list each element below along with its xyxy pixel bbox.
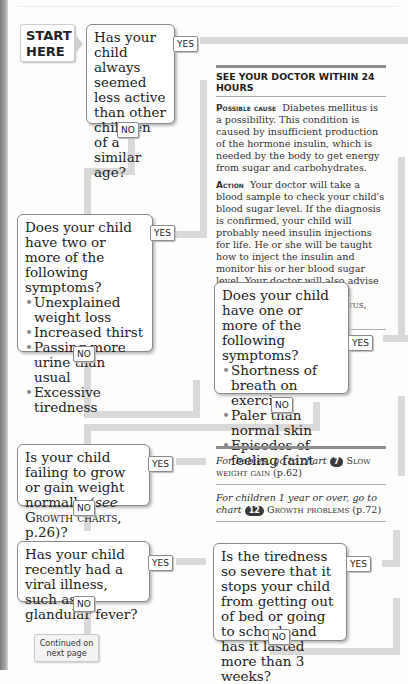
chart-references: For babies, go to chart 7 Slow weight ga… [216,446,386,527]
yes-button[interactable]: YES [148,456,173,472]
no-button[interactable]: NO [73,346,95,362]
advice-heading: SEE YOUR DOCTOR WITHIN 24 HOURS [216,71,386,93]
no-button[interactable]: NO [73,596,95,612]
yes-button[interactable]: YES [348,335,373,351]
connector-right-mid [398,396,405,476]
no-button[interactable]: NO [271,397,293,413]
question-symptoms-anaemia: Does your child have one or more of the … [214,282,349,394]
see-text: see [95,494,118,510]
ref-growth-problems[interactable]: For children 1 year or over, go to chart… [216,490,386,522]
page-top-rule [18,6,398,7]
yes-button[interactable]: YES [148,555,173,571]
chart-number-badge: 12 [245,506,264,516]
connector-q1-no-down [84,168,91,214]
chart-number-badge: 7 [330,457,344,467]
page-binding-edge [0,0,8,670]
connector-right-upper [398,157,405,342]
start-here-label: START HERE [20,24,75,62]
no-button[interactable]: NO [73,500,95,516]
question-failing-to-grow: Is your child failing to grow or gain we… [17,444,150,506]
no-button[interactable]: NO [117,122,139,138]
heading-underline [216,96,386,97]
connector-q2-yes-up [200,80,207,238]
heading-rule [216,65,386,68]
ref-lead: For babies, go to chart [216,455,327,466]
question-text: Is the tiredness so severe that it stops… [221,548,333,684]
yes-button[interactable]: YES [150,225,175,241]
question-symptoms-diabetes: Does your child have two or more of the … [17,214,153,352]
ref-page: (p.62) [270,467,302,478]
connector-q2-no-up [193,380,200,418]
connector-q6-yes-up [393,530,400,567]
connector-q4-yes [176,458,206,465]
start-line-2: HERE [26,44,74,60]
question-text: Does your child have one or more of the … [222,288,341,363]
question-text: Does your child have two or more of the … [25,220,145,295]
yes-button[interactable]: YES [346,556,371,572]
growth-charts-link[interactable]: Growth charts [25,509,117,525]
refs-top-rule [216,446,386,449]
continued-line-1: Continued on [35,639,98,649]
ref-page: (p.72) [349,504,381,515]
connector-q6-no-up [393,598,400,655]
question-less-active: Has your child always seemed less active… [86,24,175,124]
connector-q2-yes [176,231,200,238]
connector-q5-yes [176,558,206,565]
connector-q1-yes [200,37,408,44]
continued-next-page-button[interactable]: Continued on next page [34,634,99,662]
symptom-item: Unexplained weight loss [25,295,145,325]
question-viral-illness: Has your child recently had a viral illn… [17,541,150,602]
action-label: Action [216,180,244,190]
yes-button[interactable]: YES [173,36,198,52]
symptom-item: Excessive tiredness [25,385,145,415]
symptom-item: Increased thirst [25,325,145,340]
question-severe-tiredness: Is the tiredness so severe that it stops… [213,543,347,641]
ref-slow-weight-gain[interactable]: For babies, go to chart 7 Slow weight ga… [216,453,386,485]
connector-q4-in [84,424,91,446]
continued-line-2: next page [35,649,98,659]
start-line-1: START [26,28,74,44]
possible-cause-label: Possible cause [216,103,276,113]
no-button[interactable]: NO [268,629,290,645]
question-text: Has your child always seemed less active… [94,29,166,180]
ref-title: Growth problems [264,504,349,515]
possible-cause-paragraph: Possible cause Diabetes mellitus is a po… [216,102,386,174]
